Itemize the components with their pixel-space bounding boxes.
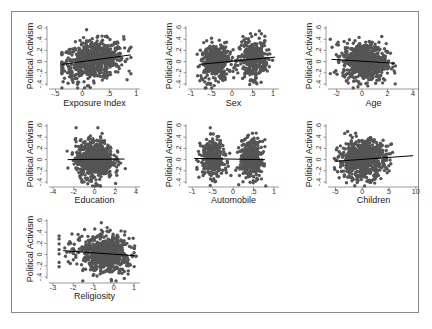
y-tick-label: .2 bbox=[35, 145, 44, 151]
y-axis-title: Political Activism bbox=[164, 23, 174, 90]
y-tick-label: .4 bbox=[314, 36, 323, 42]
y-tick-label: 0 bbox=[35, 60, 44, 64]
x-tick-label: -4 bbox=[50, 187, 56, 196]
y-tick-label: .6 bbox=[174, 123, 183, 129]
x-axis-title: Education bbox=[74, 195, 114, 205]
y-tick-label: .4 bbox=[174, 134, 183, 140]
y-tick-label: 0 bbox=[174, 60, 183, 64]
y-tick-label: -.4 bbox=[35, 80, 44, 88]
scatter-panel-children: -.4-.20.2.4.6Political Activism-50510Chi… bbox=[304, 121, 420, 205]
scatter-panel-age: -.4-.20.2.4.6Political Activism-2024Age bbox=[304, 23, 419, 108]
y-axis-title: Political Activism bbox=[25, 121, 35, 188]
x-tick-label: 0 bbox=[360, 89, 364, 98]
y-tick-label: -.4 bbox=[174, 178, 183, 186]
x-axis-title: Age bbox=[365, 98, 381, 108]
scatter-panel-religiosity: -.4-.20.2.4.6Political Activism-3-2-101R… bbox=[25, 216, 140, 301]
scatter-panel-automobile: -.4-.20.2.4.6Political Activism-1-.50.51… bbox=[164, 121, 279, 205]
y-tick-label: .4 bbox=[35, 229, 44, 235]
x-tick-label: 2 bbox=[385, 89, 389, 98]
y-tick-label: .6 bbox=[35, 123, 44, 129]
y-tick-label: -.4 bbox=[314, 178, 323, 186]
fit-line bbox=[68, 159, 125, 160]
y-tick-label: -.2 bbox=[314, 69, 323, 77]
x-axis-title: Exposure Index bbox=[63, 98, 126, 108]
y-tick-label: .4 bbox=[174, 36, 183, 42]
x-axis-title: Religiosity bbox=[74, 291, 116, 301]
x-tick-label: 1 bbox=[132, 283, 136, 292]
scatter-panel-sex: -.4-.20.2.4.6Political Activism-1-.50.51… bbox=[164, 23, 279, 108]
y-tick-label: -.2 bbox=[35, 262, 44, 270]
y-tick-label: 0 bbox=[35, 253, 44, 257]
y-tick-label: -.2 bbox=[35, 69, 44, 77]
y-tick-label: .2 bbox=[35, 240, 44, 246]
y-tick-label: .6 bbox=[35, 218, 44, 224]
x-tick-label: .5 bbox=[250, 89, 256, 98]
y-tick-label: -.2 bbox=[314, 167, 323, 175]
y-axis-title: Political Activism bbox=[164, 121, 174, 188]
y-tick-label: .2 bbox=[174, 145, 183, 151]
x-tick-label: -3 bbox=[50, 283, 56, 292]
y-tick-label: 0 bbox=[314, 158, 323, 162]
data-points bbox=[329, 35, 398, 90]
x-tick-label: 0 bbox=[230, 89, 234, 98]
y-tick-label: 0 bbox=[35, 158, 44, 162]
y-tick-label: .4 bbox=[314, 134, 323, 140]
y-axis-title: Political Activism bbox=[304, 121, 314, 188]
scatter-panel-education: -.4-.20.2.4.6Political Activism-4-2024Ed… bbox=[25, 121, 140, 205]
data-points bbox=[196, 29, 275, 89]
scatter-panel-exposure-index: -.4-.20.2.4.6Political Activism-.50.51Ex… bbox=[25, 23, 140, 108]
y-tick-label: .2 bbox=[314, 47, 323, 53]
y-tick-label: .2 bbox=[314, 145, 323, 151]
x-tick-label: -.5 bbox=[51, 89, 59, 98]
x-tick-label: -2 bbox=[333, 89, 339, 98]
scatterplot-matrix: -.4-.20.2.4.6Political Activism-.50.51Ex… bbox=[0, 0, 432, 329]
x-tick-label: 1 bbox=[272, 187, 276, 196]
y-tick-label: .6 bbox=[174, 25, 183, 31]
data-points bbox=[60, 28, 132, 90]
x-tick-label: .5 bbox=[106, 89, 112, 98]
x-axis-title: Automobile bbox=[211, 195, 256, 205]
x-axis-title: Sex bbox=[226, 98, 242, 108]
y-tick-label: 0 bbox=[314, 60, 323, 64]
y-axis-title: Political Activism bbox=[304, 23, 314, 90]
x-tick-label: 4 bbox=[411, 89, 415, 98]
y-tick-label: -.4 bbox=[35, 273, 44, 281]
x-tick-label: 0 bbox=[80, 89, 84, 98]
data-points bbox=[57, 221, 137, 283]
data-points bbox=[333, 130, 395, 188]
y-tick-label: .6 bbox=[314, 123, 323, 129]
x-tick-label: -.5 bbox=[207, 89, 215, 98]
y-tick-label: -.2 bbox=[35, 167, 44, 175]
y-tick-label: -.2 bbox=[174, 167, 183, 175]
x-tick-label: 4 bbox=[134, 187, 138, 196]
y-tick-label: .6 bbox=[35, 25, 44, 31]
x-axis-title: Children bbox=[357, 195, 391, 205]
x-tick-label: -5 bbox=[332, 187, 338, 196]
x-tick-label: 1 bbox=[271, 89, 275, 98]
x-tick-label: -1 bbox=[188, 89, 194, 98]
y-tick-label: .2 bbox=[35, 47, 44, 53]
y-tick-label: -.2 bbox=[174, 69, 183, 77]
y-tick-label: -.4 bbox=[174, 80, 183, 88]
y-tick-label: 0 bbox=[174, 158, 183, 162]
x-tick-label: 1 bbox=[134, 89, 138, 98]
y-axis-title: Political Activism bbox=[25, 23, 35, 90]
y-tick-label: .6 bbox=[314, 25, 323, 31]
y-tick-label: -.4 bbox=[314, 80, 323, 88]
y-tick-label: .4 bbox=[35, 134, 44, 140]
data-points bbox=[195, 126, 267, 188]
y-tick-label: -.4 bbox=[35, 178, 44, 186]
y-axis-title: Political Activism bbox=[25, 216, 35, 283]
y-tick-label: .4 bbox=[35, 36, 44, 42]
y-tick-label: .2 bbox=[174, 47, 183, 53]
data-points bbox=[65, 126, 127, 188]
x-tick-label: 10 bbox=[412, 187, 420, 196]
x-tick-label: -1 bbox=[189, 187, 195, 196]
